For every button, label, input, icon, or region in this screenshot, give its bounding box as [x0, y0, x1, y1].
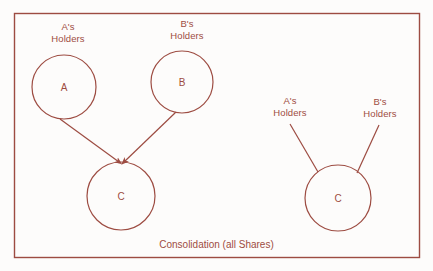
label-b-holders-right: B's Holders [350, 96, 410, 119]
leader-line-a-holders [290, 124, 318, 172]
node-label-c-left: C [101, 191, 141, 202]
consolidation-diagram: A's Holders B's Holders A B C A's Holder… [0, 0, 433, 271]
figure-caption: Consolidation (all Shares) [0, 239, 433, 250]
leader-line-b-holders [357, 125, 379, 173]
edge-b-to-c [124, 112, 176, 162]
node-label-c-right: C [318, 193, 358, 204]
node-label-b: B [162, 77, 202, 88]
label-a-holders-right: A's Holders [260, 95, 320, 118]
edge-a-to-c [60, 119, 119, 162]
label-a-holders-left: A's Holders [38, 21, 98, 44]
label-b-holders-left: B's Holders [157, 18, 217, 41]
diagram-border [15, 14, 420, 258]
node-label-a: A [44, 82, 84, 93]
